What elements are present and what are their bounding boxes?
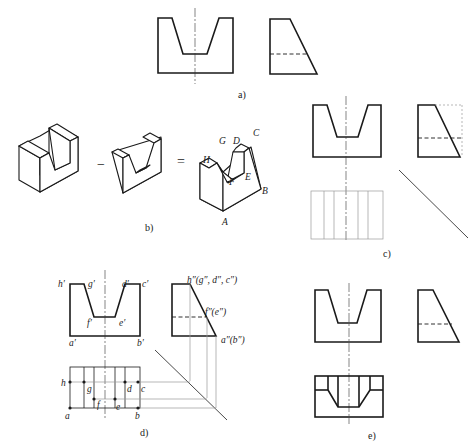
caption-d: d) [140, 427, 148, 439]
label-e: e [116, 402, 120, 412]
label-side-bottom: a″(b″) [221, 335, 245, 346]
point-H: H [202, 155, 211, 165]
point-E: E [244, 172, 251, 182]
panel-b: − = A B C D E F G H b) [19, 124, 268, 234]
panel-d: h′ g′ d′ c′ f′ e′ a′ b′ h″(g″, d″, c″) f… [58, 270, 245, 439]
label-a: a [65, 411, 70, 421]
front-view [158, 18, 233, 73]
technical-drawing: a) − = [0, 0, 475, 445]
top-view-construction [311, 191, 383, 239]
point-B: B [262, 186, 268, 196]
caption-c: c) [383, 248, 391, 260]
label-b: b [135, 411, 140, 421]
label-d: d [127, 384, 132, 394]
label-side-mid: f″(e″) [205, 307, 226, 318]
45-degree-line [399, 170, 468, 238]
label-side-top: h″(g″, d″, c″) [187, 275, 237, 286]
panel-e: e) [315, 283, 459, 442]
label-e-prime: e′ [119, 318, 126, 328]
side-view [270, 19, 317, 74]
label-g-prime: g′ [88, 279, 96, 289]
label-d-prime: d′ [122, 279, 130, 289]
caption-e: e) [368, 430, 376, 442]
label-f: f [97, 400, 101, 410]
front-view [315, 290, 381, 342]
label-f-prime: f′ [87, 318, 93, 328]
panel-c: c) [311, 96, 468, 260]
label-b-prime: b′ [137, 338, 145, 348]
side-view [418, 105, 460, 157]
iso-cut-piece [112, 133, 161, 193]
point-C: C [253, 128, 260, 138]
front-view [313, 105, 381, 157]
point-D: D [232, 136, 240, 146]
label-h-prime: h′ [58, 279, 66, 289]
label-g: g [87, 384, 92, 394]
label-a-prime: a′ [69, 338, 77, 348]
panel-a: a) [158, 8, 317, 101]
minus-sign: − [97, 157, 105, 172]
equals-sign: = [177, 154, 185, 169]
point-F: F [228, 177, 235, 187]
label-c: c [141, 384, 146, 394]
point-G: G [219, 136, 226, 146]
side-view [418, 290, 459, 342]
caption-a: a) [238, 89, 246, 101]
iso-block-full [19, 124, 78, 192]
point-A: A [221, 217, 228, 227]
label-h: h [61, 378, 66, 388]
caption-b: b) [145, 222, 153, 234]
label-c-prime: c′ [142, 279, 149, 289]
